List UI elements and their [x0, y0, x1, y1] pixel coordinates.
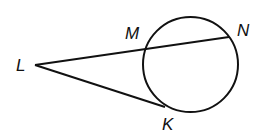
circle	[143, 17, 238, 112]
geometry-diagram	[0, 0, 269, 131]
tangent-line-LK	[35, 65, 165, 107]
point-label-N: N	[237, 22, 249, 39]
point-label-M: M	[125, 25, 139, 42]
point-label-L: L	[16, 57, 25, 74]
point-label-K: K	[162, 116, 173, 131]
